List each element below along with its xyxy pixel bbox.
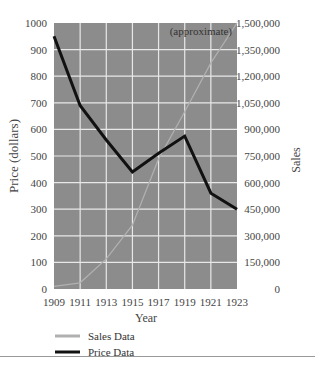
svg-text:400: 400: [31, 177, 48, 189]
svg-text:750,000: 750,000: [244, 150, 280, 162]
svg-text:1000: 1000: [25, 17, 48, 29]
svg-text:200: 200: [31, 230, 48, 242]
svg-text:100: 100: [31, 256, 48, 268]
svg-text:0: 0: [42, 283, 48, 295]
x-axis-ticks: 19091911191319151917191919211923: [43, 296, 249, 308]
left-axis-ticks: 01002003004005006007008009001000: [25, 17, 48, 295]
svg-text:1,350,000: 1,350,000: [236, 44, 281, 56]
svg-text:600,000: 600,000: [244, 177, 280, 189]
svg-text:1913: 1913: [95, 296, 118, 308]
svg-text:500: 500: [31, 150, 48, 162]
legend: Sales Data Price Data: [55, 330, 135, 358]
svg-text:300: 300: [31, 203, 48, 215]
svg-text:1923: 1923: [226, 296, 249, 308]
svg-text:1915: 1915: [121, 296, 144, 308]
svg-text:150,000: 150,000: [244, 256, 280, 268]
svg-text:1909: 1909: [43, 296, 66, 308]
left-axis-label: Price (dollars): [6, 119, 21, 193]
svg-text:1,050,000: 1,050,000: [236, 97, 281, 109]
chart: 01002003004005006007008009001000 0150,00…: [0, 0, 315, 372]
svg-text:1919: 1919: [174, 296, 197, 308]
legend-sales-label: Sales Data: [88, 330, 135, 342]
right-axis-ticks: 0150,000300,000450,000600,000750,000900,…: [236, 17, 281, 295]
svg-text:800: 800: [31, 70, 48, 82]
svg-text:1,200,000: 1,200,000: [236, 70, 281, 82]
x-axis-label: Year: [135, 311, 157, 325]
svg-text:900,000: 900,000: [244, 123, 280, 135]
svg-text:1917: 1917: [148, 296, 171, 308]
svg-text:700: 700: [31, 97, 48, 109]
divider: [0, 356, 315, 357]
svg-text:450,000: 450,000: [244, 203, 280, 215]
svg-text:600: 600: [31, 123, 48, 135]
svg-text:1921: 1921: [200, 296, 222, 308]
svg-text:900: 900: [31, 44, 48, 56]
svg-text:300,000: 300,000: [244, 230, 280, 242]
svg-text:1,500,000: 1,500,000: [236, 17, 281, 29]
svg-text:1911: 1911: [69, 296, 91, 308]
right-axis-label: Sales: [289, 147, 303, 173]
approximate-annotation: (approximate): [170, 25, 233, 38]
svg-text:0: 0: [275, 283, 281, 295]
